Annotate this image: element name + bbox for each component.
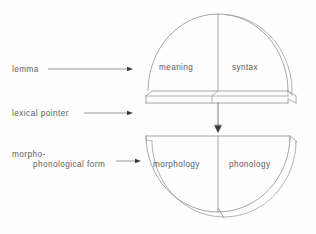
lexical-pointer-arrow-label <box>84 111 133 115</box>
label-lemma: lemma <box>12 65 39 75</box>
region-label-morphology: morphology <box>153 160 200 169</box>
lemma-arrow <box>48 67 133 71</box>
label-morpho-phonological-form: morpho- phonological form <box>12 150 105 170</box>
diagram-canvas: lemma lexical pointer morpho- phonologic… <box>0 0 316 234</box>
region-label-phonology: phonology <box>229 160 270 169</box>
label-morpho-line2: phonological form <box>12 160 105 170</box>
region-label-meaning: meaning <box>159 63 193 72</box>
label-lexical-pointer: lexical pointer <box>12 109 69 119</box>
morpho-phonological-form-arrow <box>116 159 141 163</box>
label-morpho-line1: morpho- <box>12 150 46 159</box>
region-label-syntax: syntax <box>232 63 258 72</box>
